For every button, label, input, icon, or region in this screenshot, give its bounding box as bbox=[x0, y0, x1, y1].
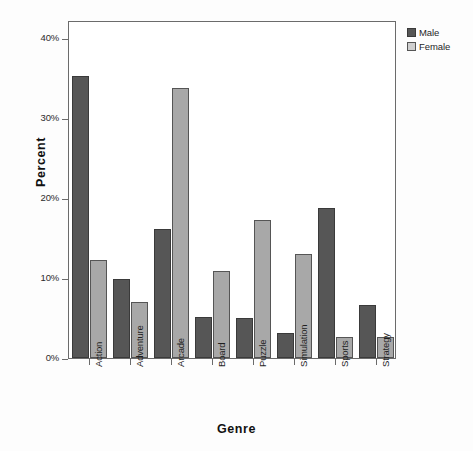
bar-chart: Percent 0%10%20%30%40% ActionAdventureAr… bbox=[0, 0, 473, 451]
bar-sports-male bbox=[318, 208, 335, 358]
bar-group bbox=[277, 22, 312, 358]
y-axis-tick-label: 20% bbox=[41, 192, 59, 203]
bar-adventure-male bbox=[113, 279, 130, 358]
x-axis-tick-mark bbox=[130, 359, 131, 365]
x-axis-tick-label: Strategy bbox=[380, 333, 391, 367]
legend-swatch-female bbox=[407, 42, 416, 51]
y-axis-tick-label: 30% bbox=[41, 112, 59, 123]
bar-simulation-male bbox=[277, 333, 294, 358]
x-axis-tick-label: Adventure bbox=[134, 325, 145, 367]
chart-legend: MaleFemale bbox=[407, 27, 471, 55]
legend-label: Male bbox=[419, 27, 439, 38]
legend-item-male: Male bbox=[407, 27, 471, 38]
y-axis-tick-label: 10% bbox=[41, 272, 59, 283]
x-axis-tick-mark bbox=[376, 359, 377, 365]
x-axis-title: Genre bbox=[0, 422, 473, 436]
bar-arcade-male bbox=[154, 229, 171, 358]
bar-group bbox=[359, 22, 394, 358]
bar-group bbox=[72, 22, 107, 358]
plot-bars bbox=[69, 22, 395, 358]
plot-area bbox=[68, 21, 396, 359]
bar-group bbox=[236, 22, 271, 358]
y-axis-tick-label: 40% bbox=[41, 32, 59, 43]
bar-strategy-male bbox=[359, 305, 376, 358]
bar-group bbox=[113, 22, 148, 358]
x-axis-tick-label: Puzzle bbox=[257, 340, 268, 367]
y-axis-tick-label: 0% bbox=[46, 352, 59, 363]
x-axis-tick-mark bbox=[212, 359, 213, 365]
x-axis-tick-label: Simulation bbox=[298, 325, 309, 367]
y-axis-ticks: 0%10%20%30%40% bbox=[0, 21, 68, 359]
legend-item-female: Female bbox=[407, 41, 471, 52]
x-axis-tick-label: Sports bbox=[339, 341, 350, 367]
x-axis-tick-mark bbox=[171, 359, 172, 365]
legend-label: Female bbox=[419, 41, 450, 52]
bar-puzzle-male bbox=[236, 318, 253, 358]
bar-action-male bbox=[72, 76, 89, 358]
bar-group bbox=[195, 22, 230, 358]
bar-group bbox=[154, 22, 189, 358]
bar-arcade-female bbox=[172, 88, 189, 358]
x-axis-tick-label: Arcade bbox=[175, 338, 186, 367]
x-axis-tick-mark bbox=[253, 359, 254, 365]
x-axis-tick-label: Board bbox=[216, 343, 227, 367]
bar-group bbox=[318, 22, 353, 358]
bar-puzzle-female bbox=[254, 220, 271, 358]
legend-swatch-male bbox=[407, 28, 416, 37]
x-axis-tick-mark bbox=[294, 359, 295, 365]
x-axis-tick-mark bbox=[335, 359, 336, 365]
bar-board-male bbox=[195, 317, 212, 358]
x-axis-tick-mark bbox=[89, 359, 90, 365]
x-axis-tick-label: Action bbox=[93, 342, 104, 367]
